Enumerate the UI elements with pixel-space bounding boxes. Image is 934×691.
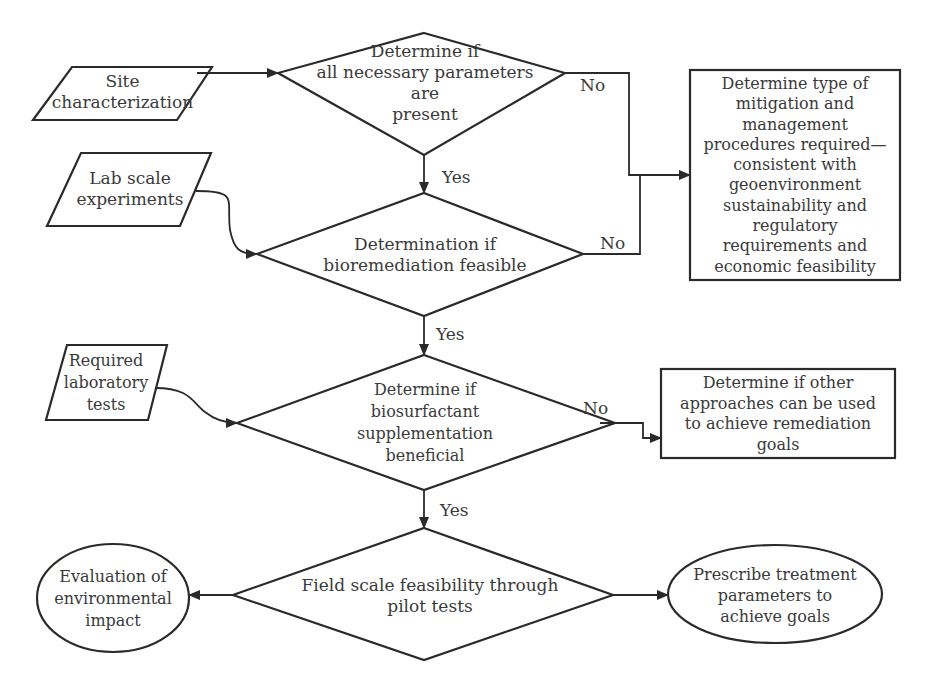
edge-label-decision2-yes: Yes bbox=[436, 324, 465, 344]
environmental-impact-label: Evaluation of environmental impact bbox=[40, 566, 186, 632]
decision-field-label: Field scale feasibility through pilot te… bbox=[280, 575, 580, 617]
mitigation-box-label: Determine type of mitigation and managem… bbox=[695, 74, 895, 277]
edge-label-decision1-yes: Yes bbox=[442, 167, 471, 187]
required-tests-label: Required laboratory tests bbox=[56, 350, 156, 416]
decision-biosurfactant-label: Determine if biosurfactant supplementati… bbox=[320, 379, 530, 467]
edge-label-decision3-yes: Yes bbox=[440, 500, 469, 520]
prescribe-treatment-label: Prescribe treatment parameters to achiev… bbox=[670, 564, 880, 627]
edge-lab-to-decision2 bbox=[196, 191, 257, 254]
edge-label-decision2-no: No bbox=[600, 233, 625, 253]
edge-label-decision1-no: No bbox=[580, 75, 605, 95]
other-approaches-box-label: Determine if other approaches can be use… bbox=[664, 373, 892, 455]
decision-bioremediation-label: Determination if bioremediation feasible bbox=[300, 234, 550, 276]
site-characterization-label: Site characterization bbox=[50, 71, 195, 113]
lab-scale-label: Lab scale experiments bbox=[60, 168, 200, 210]
edge-tests-to-decision3 bbox=[155, 388, 237, 423]
decision-parameters-label: Determine if all necessary parameters ar… bbox=[300, 41, 550, 125]
edge-label-decision3-no: No bbox=[583, 398, 608, 418]
